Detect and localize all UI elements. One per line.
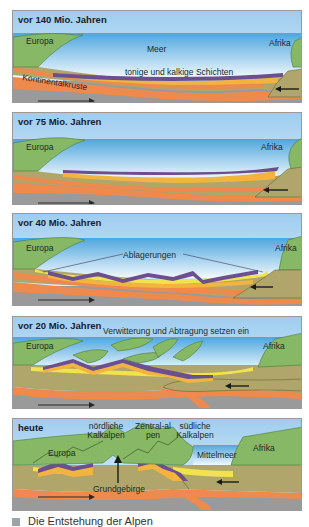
caption-marker-icon bbox=[12, 518, 20, 526]
label-europe: Europa bbox=[26, 342, 53, 351]
label-north-alps: nördliche Kalkalpen bbox=[85, 422, 127, 439]
label-south-alps: südliche Kalkalpen bbox=[175, 422, 215, 439]
label-europe: Europa bbox=[48, 449, 75, 458]
panel-today: heute Europa Afrika nördliche Kalkalpen … bbox=[12, 418, 302, 511]
label-europe: Europa bbox=[26, 143, 53, 152]
label-europe: Europa bbox=[26, 37, 53, 46]
panel-title: heute bbox=[18, 422, 43, 433]
label-sea: Meer bbox=[147, 45, 166, 54]
label-africa: Afrika bbox=[253, 444, 275, 453]
panel-140-mya: vor 140 Mio. Jahren Europa Afrika Meer t… bbox=[12, 10, 302, 103]
label-africa: Afrika bbox=[269, 39, 291, 48]
label-africa: Afrika bbox=[263, 342, 285, 351]
panel-title: vor 75 Mio. Jahren bbox=[18, 116, 101, 127]
label-central-alps: Zentral-alpen bbox=[135, 422, 171, 439]
label-erosion: Verwitterung und Abtragung setzen ein bbox=[103, 327, 249, 336]
panel-title: vor 20 Mio. Jahren bbox=[18, 320, 101, 331]
panel-title: vor 40 Mio. Jahren bbox=[18, 217, 101, 228]
label-africa: Afrika bbox=[261, 143, 283, 152]
panel-40-mya: vor 40 Mio. Jahren Europa Afrika Ablager… bbox=[12, 213, 302, 306]
panel-75-mya: vor 75 Mio. Jahren Europa Afrika bbox=[12, 112, 302, 205]
label-africa: Afrika bbox=[275, 244, 297, 253]
figure-caption: Die Entstehung der Alpen bbox=[12, 515, 153, 527]
panel-20-mya: vor 20 Mio. Jahren Europa Afrika Verwitt… bbox=[12, 316, 302, 409]
label-deposits: Ablagerungen bbox=[123, 251, 176, 260]
label-mediterranean: Mittelmeer bbox=[197, 451, 237, 460]
caption-text: Die Entstehung der Alpen bbox=[28, 515, 153, 527]
label-basement: Grundgebirge bbox=[93, 485, 145, 494]
label-layers: tonige und kalkige Schichten bbox=[125, 68, 233, 77]
label-europe: Europa bbox=[26, 244, 53, 253]
panel-title: vor 140 Mio. Jahren bbox=[18, 14, 107, 25]
